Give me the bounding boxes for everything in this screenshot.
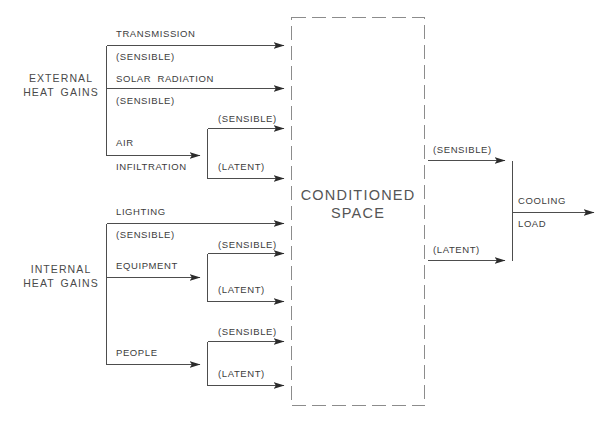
- label-air-sensible: (SENSIBLE): [218, 114, 277, 124]
- group-label-internal-line2: HEAT GAINS: [18, 278, 104, 289]
- label-people: PEOPLE: [116, 348, 158, 358]
- conditioned-space-label: CONDITIONED SPACE: [291, 188, 425, 220]
- cooling-load-diagram: EXTERNAL HEAT GAINS INTERNAL HEAT GAINS …: [0, 0, 612, 423]
- label-equipment: EQUIPMENT: [116, 261, 178, 271]
- label-lighting-sensible: (SENSIBLE): [116, 230, 175, 240]
- label-equipment-sensible: (SENSIBLE): [218, 240, 277, 250]
- label-output-latent: (LATENT): [433, 245, 480, 255]
- label-lighting: LIGHTING: [116, 207, 166, 217]
- label-transmission: TRANSMISSION: [116, 29, 196, 39]
- label-people-latent: (LATENT): [218, 369, 265, 379]
- label-transmission-sensible: (SENSIBLE): [116, 52, 175, 62]
- label-air: AIR: [116, 138, 134, 148]
- label-air-latent: (LATENT): [218, 162, 265, 172]
- label-cooling: COOLING: [518, 196, 566, 206]
- label-infiltration: INFILTRATION: [116, 162, 187, 172]
- conditioned-space-label-line1: CONDITIONED: [291, 188, 425, 203]
- label-load: LOAD: [518, 219, 546, 229]
- label-solar-sensible: (SENSIBLE): [116, 96, 175, 106]
- label-equipment-latent: (LATENT): [218, 285, 265, 295]
- conditioned-space-label-line2: SPACE: [291, 206, 425, 221]
- group-label-internal-line1: INTERNAL: [18, 264, 104, 275]
- label-people-sensible: (SENSIBLE): [218, 327, 277, 337]
- group-label-internal: INTERNAL HEAT GAINS: [18, 264, 104, 288]
- group-label-external-line1: EXTERNAL: [18, 73, 104, 84]
- label-output-sensible: (SENSIBLE): [433, 145, 492, 155]
- group-label-external-line2: HEAT GAINS: [18, 87, 104, 98]
- group-label-external: EXTERNAL HEAT GAINS: [18, 73, 104, 97]
- label-solar-radiation: SOLAR RADIATION: [116, 74, 214, 84]
